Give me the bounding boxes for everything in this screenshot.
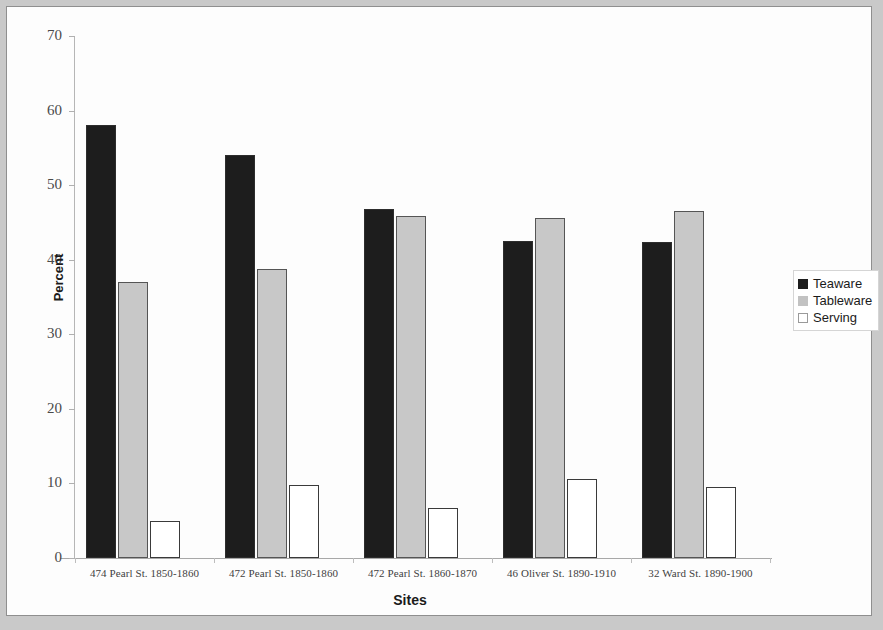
y-tick-label: 10 — [28, 474, 62, 491]
x-axis-line — [60, 558, 772, 559]
chart-legend: TeawareTablewareServing — [793, 270, 879, 331]
bar-tableware-1 — [118, 282, 148, 558]
bar-serving-3 — [428, 508, 458, 558]
y-tick-label: 20 — [28, 400, 62, 417]
bar-tableware-3 — [396, 216, 426, 558]
bar-tableware-5 — [674, 211, 704, 558]
legend-item-serving: Serving — [798, 309, 872, 326]
x-tick-mark — [75, 558, 76, 563]
bar-teaware-3 — [364, 209, 394, 558]
legend-label: Teaware — [813, 276, 862, 291]
plot-area — [75, 36, 770, 558]
bar-teaware-1 — [86, 125, 116, 558]
legend-label: Serving — [813, 310, 857, 325]
legend-swatch-icon — [798, 279, 808, 289]
y-tick-label: 50 — [28, 176, 62, 193]
grouped-bar-chart: 706050403020100 Percent 474 Pearl St. 18… — [0, 0, 883, 630]
legend-item-teaware: Teaware — [798, 275, 872, 292]
legend-swatch-icon — [798, 313, 808, 323]
x-tick-mark — [353, 558, 354, 563]
bar-tableware-2 — [257, 269, 287, 558]
bar-serving-5 — [706, 487, 736, 558]
bar-teaware-5 — [642, 242, 672, 558]
x-tick-mark — [492, 558, 493, 563]
x-tick-mark — [214, 558, 215, 563]
x-tick-mark — [770, 558, 771, 563]
x-axis-title: Sites — [0, 592, 820, 608]
legend-swatch-icon — [798, 296, 808, 306]
y-axis-title: Percent — [51, 218, 66, 338]
bar-serving-4 — [567, 479, 597, 558]
x-tick-label: 32 Ward St. 1890-1900 — [616, 567, 786, 579]
bar-teaware-4 — [503, 241, 533, 558]
y-tick-label: 0 — [28, 549, 62, 566]
bar-teaware-2 — [225, 155, 255, 558]
legend-label: Tableware — [813, 293, 872, 308]
y-tick-label: 60 — [28, 102, 62, 119]
bar-serving-2 — [289, 485, 319, 558]
y-tick-label: 70 — [28, 27, 62, 44]
x-tick-mark — [631, 558, 632, 563]
bar-serving-1 — [150, 521, 180, 558]
legend-item-tableware: Tableware — [798, 292, 872, 309]
bar-tableware-4 — [535, 218, 565, 558]
